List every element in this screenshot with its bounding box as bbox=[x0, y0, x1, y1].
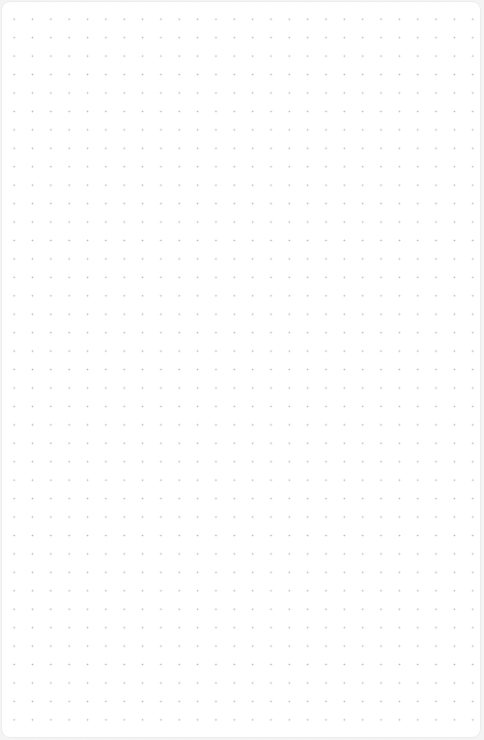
dot-grid-canvas[interactable] bbox=[2, 2, 480, 737]
